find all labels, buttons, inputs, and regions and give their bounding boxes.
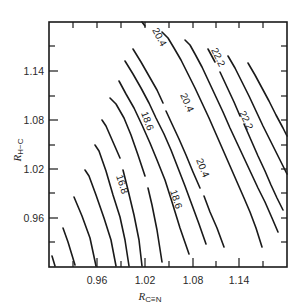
contour-label: 22.2 — [237, 109, 256, 132]
contour-lines — [52, 22, 287, 266]
y-axis-title: RH−C — [11, 138, 25, 162]
y-tick-label: 0.96 — [24, 212, 45, 224]
x-tick-label: 1.14 — [229, 274, 250, 286]
x-axis-title: RC≡N — [138, 290, 162, 304]
x-tick-label: 1.08 — [183, 274, 204, 286]
contour-line — [74, 197, 96, 266]
contour-label: 20.4 — [178, 91, 196, 114]
contour-label: 16.8 — [114, 173, 131, 195]
contour-label: 20.4 — [150, 26, 169, 49]
contour-line — [185, 40, 278, 232]
contour-line — [52, 256, 55, 266]
y-tick-label: 1.08 — [24, 114, 45, 126]
contour-label: 20.4 — [194, 157, 212, 180]
y-tick-label: 1.02 — [24, 163, 45, 175]
contour-line — [133, 49, 224, 247]
x-tick-label: 1.02 — [135, 274, 156, 286]
x-tick-label: 0.96 — [87, 274, 108, 286]
y-tick-label: 1.14 — [24, 65, 45, 77]
contour-line — [85, 170, 116, 266]
contour-line — [63, 228, 75, 265]
contour-chart: 0.96 1.02 1.08 1.14 1.14 1.08 1.02 0.96 … — [0, 0, 303, 306]
